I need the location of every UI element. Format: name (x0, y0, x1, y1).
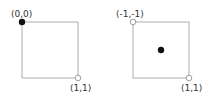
open-point-bottom-right (186, 75, 192, 81)
unit-square (22, 22, 78, 78)
diagram-top-left-origin: (0,0) (1,1) (11, 9, 91, 93)
label-bottom-right: (1,1) (70, 83, 91, 93)
coordinate-diagrams: (0,0) (1,1) (-1,-1) (1,1) (0, 0, 207, 103)
filled-point-origin (19, 19, 25, 25)
label-bottom-right: (1,1) (181, 83, 202, 93)
filled-point-center (158, 47, 164, 53)
label-top-left: (0,0) (11, 9, 32, 19)
open-point-corner (75, 75, 81, 81)
open-point-top-left (130, 19, 136, 25)
diagram-center-origin: (-1,-1) (1,1) (116, 9, 202, 93)
label-top-left: (-1,-1) (116, 9, 144, 19)
